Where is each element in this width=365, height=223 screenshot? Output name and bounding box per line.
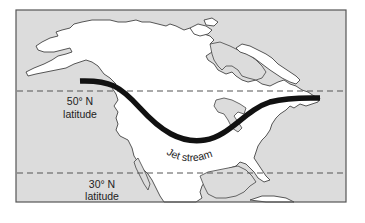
latitude-30n-label: 30° N [89, 178, 115, 190]
latitude-50n-sublabel: latitude [63, 108, 97, 120]
latitude-30n-sublabel: latitude [85, 190, 119, 202]
jet-stream-map: 50° N latitude 30° N latitude Jet stream [0, 0, 365, 223]
latitude-50n-label: 50° N [67, 95, 93, 107]
